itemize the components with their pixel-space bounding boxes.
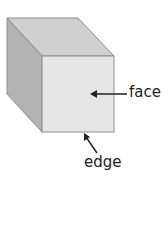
face-label: face: [129, 85, 161, 100]
edge-label: edge: [84, 155, 122, 170]
edge-arrow-icon: [84, 133, 97, 153]
